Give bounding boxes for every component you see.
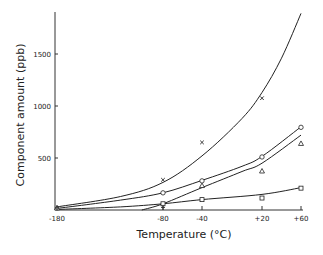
curves xyxy=(57,13,301,210)
data-point-triangle xyxy=(260,169,265,174)
data-point-triangle xyxy=(200,183,205,188)
x-tick-label: -80 xyxy=(157,215,168,223)
data-point-square xyxy=(200,198,204,202)
data-point-circle xyxy=(299,125,303,129)
x-tick-label: +60 xyxy=(294,215,309,223)
y-ticks: 50010001500 xyxy=(33,51,58,163)
data-point-circle xyxy=(161,191,165,195)
data-point-cross xyxy=(161,178,165,182)
x-tick-label: -40 xyxy=(196,215,207,223)
data-point-cross xyxy=(200,141,204,145)
data-point-square xyxy=(299,186,303,190)
data-point-circle xyxy=(260,155,264,159)
x-tick-label: +20 xyxy=(255,215,270,223)
axes xyxy=(55,12,303,210)
y-tick-label: 500 xyxy=(38,155,51,163)
data-point-square xyxy=(260,196,264,200)
data-point-cross xyxy=(260,96,264,100)
data-point-triangle xyxy=(299,141,304,146)
y-tick-label: 1000 xyxy=(33,103,51,111)
y-tick-label: 1500 xyxy=(33,51,51,59)
chart: -180-80-40+20+60 50010001500 Temperature… xyxy=(0,0,323,255)
x-tick-label: -180 xyxy=(49,215,65,223)
x-axis-title: Temperature (°C) xyxy=(136,228,232,241)
curve-cross xyxy=(57,13,301,207)
y-axis-title: Component amount (ppb) xyxy=(14,44,27,187)
curve-triangle xyxy=(142,135,301,210)
